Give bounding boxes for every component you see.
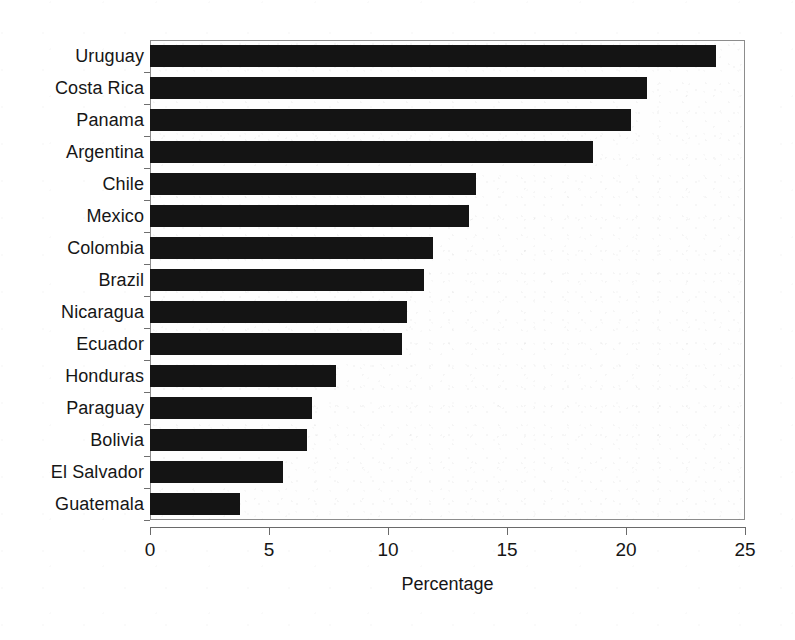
- category-label: Panama: [0, 109, 144, 131]
- bar: [150, 205, 469, 227]
- value-axis-tick: [269, 527, 270, 535]
- value-axis-tick-label: 20: [596, 538, 656, 561]
- value-axis-tick: [388, 527, 389, 535]
- category-label: Bolivia: [0, 429, 144, 451]
- bar: [150, 237, 433, 259]
- bar: [150, 141, 593, 163]
- value-axis-tick-label: 15: [477, 538, 537, 561]
- category-label: El Salvador: [0, 461, 144, 483]
- category-label: Costa Rica: [0, 77, 144, 99]
- bar: [150, 173, 476, 195]
- bar: [150, 301, 407, 323]
- bar: [150, 269, 424, 291]
- bar: [150, 493, 240, 515]
- bar: [150, 397, 312, 419]
- category-label: Honduras: [0, 365, 144, 387]
- bar: [150, 77, 647, 99]
- bar: [150, 109, 631, 131]
- category-label: Argentina: [0, 141, 144, 163]
- category-label: Ecuador: [0, 333, 144, 355]
- value-axis-tick: [507, 527, 508, 535]
- category-label: Nicaragua: [0, 301, 144, 323]
- category-label: Colombia: [0, 237, 144, 259]
- category-label: Chile: [0, 173, 144, 195]
- bar: [150, 333, 402, 355]
- category-label: Mexico: [0, 205, 144, 227]
- category-label: Uruguay: [0, 45, 144, 67]
- category-axis-labels: UruguayCosta RicaPanamaArgentinaChileMex…: [0, 40, 144, 520]
- category-label: Paraguay: [0, 397, 144, 419]
- bars-container: [150, 40, 745, 520]
- value-axis-tick: [150, 527, 151, 535]
- value-axis-title: Percentage: [150, 574, 745, 595]
- category-label: Brazil: [0, 269, 144, 291]
- category-axis-tick: [144, 520, 150, 521]
- value-axis-tick: [626, 527, 627, 535]
- value-axis-tick-label: 10: [358, 538, 418, 561]
- value-axis-tick-label: 0: [120, 538, 180, 561]
- value-axis-tick: [745, 527, 746, 535]
- bar: [150, 45, 716, 67]
- value-axis-line: [150, 527, 745, 528]
- value-axis-tick-label: 25: [715, 538, 775, 561]
- value-axis-tick-label: 5: [239, 538, 299, 561]
- bar: [150, 429, 307, 451]
- bar: [150, 461, 283, 483]
- category-label: Guatemala: [0, 493, 144, 515]
- bar: [150, 365, 336, 387]
- bar-chart: UruguayCosta RicaPanamaArgentinaChileMex…: [0, 0, 795, 640]
